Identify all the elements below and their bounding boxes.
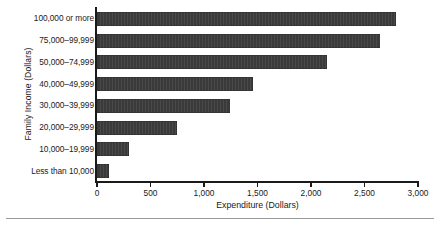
x-axis-title: Expenditure (Dollars) (97, 200, 418, 210)
y-axis-tick-label: 30,000–39,999 (18, 101, 94, 110)
bar (97, 142, 129, 156)
bar-chart-figure: Family Income (Dollars) 100,000 or more7… (0, 0, 440, 228)
x-axis-tick-label: 2,000 (283, 188, 339, 198)
x-axis-tick-label: 2,500 (337, 188, 393, 198)
y-axis-tick-label: Less than 10,000 (18, 167, 94, 176)
x-axis-tick (417, 182, 418, 187)
y-axis-tick-label: 50,000–74,999 (18, 58, 94, 67)
x-axis-ticks (97, 182, 418, 187)
bar (97, 164, 109, 178)
y-axis-tick-label: 40,000–49,999 (18, 80, 94, 89)
y-axis-tick-labels: 100,000 or more75,000–99,99950,000–74,99… (18, 8, 94, 182)
x-axis-tick-labels: 05001,0001,5002,0002,5003,000 (97, 188, 418, 200)
x-axis-tick-label: 3,000 (390, 188, 440, 198)
bottom-divider (6, 218, 434, 219)
x-axis-tick (364, 182, 365, 187)
bar (97, 12, 396, 26)
x-axis-tick (96, 182, 97, 187)
y-axis-line (95, 7, 97, 183)
x-axis-tick-label: 500 (123, 188, 179, 198)
x-axis-tick-label: 1,000 (176, 188, 232, 198)
x-axis-tick-label: 0 (69, 188, 125, 198)
x-axis-tick (150, 182, 151, 187)
bar (97, 55, 327, 69)
bar (97, 34, 380, 48)
y-axis-tick-label: 100,000 or more (18, 14, 94, 23)
bar (97, 121, 177, 135)
x-axis-tick (203, 182, 204, 187)
plot-area (97, 8, 418, 182)
bar (97, 77, 253, 91)
y-axis-tick-label: 75,000–99,999 (18, 36, 94, 45)
x-axis-tick-label: 1,500 (230, 188, 286, 198)
x-axis-tick (257, 182, 258, 187)
y-axis-tick-label: 10,000–19,999 (18, 145, 94, 154)
x-axis-tick (310, 182, 311, 187)
bar (97, 99, 230, 113)
y-axis-tick-label: 20,000–29,999 (18, 123, 94, 132)
